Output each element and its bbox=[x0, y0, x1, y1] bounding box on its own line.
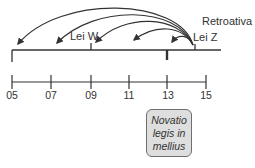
lower-timeline-axis bbox=[12, 75, 206, 89]
upper-timeline bbox=[12, 43, 221, 62]
tick-label-07: 07 bbox=[41, 89, 61, 101]
callout-line-1: Novatio bbox=[151, 114, 187, 127]
arrow-to-05 bbox=[18, 8, 193, 45]
retroactive-arrows bbox=[18, 8, 193, 45]
tick-label-05: 05 bbox=[2, 89, 22, 101]
callout-line-2: legis in bbox=[153, 127, 186, 140]
callout-line-3: mellius bbox=[153, 140, 186, 153]
novatio-legis-callout: Novatio legis in mellius bbox=[146, 109, 192, 157]
tick-label-09: 09 bbox=[81, 89, 101, 101]
tick-label-15: 15 bbox=[196, 89, 216, 101]
retroativa-label: Retroativa bbox=[202, 15, 252, 27]
lei-w-label: Lei W bbox=[70, 30, 98, 42]
lei-z-label: Lei Z bbox=[193, 31, 217, 43]
tick-label-13: 13 bbox=[158, 89, 178, 101]
tick-label-11: 11 bbox=[119, 89, 139, 101]
